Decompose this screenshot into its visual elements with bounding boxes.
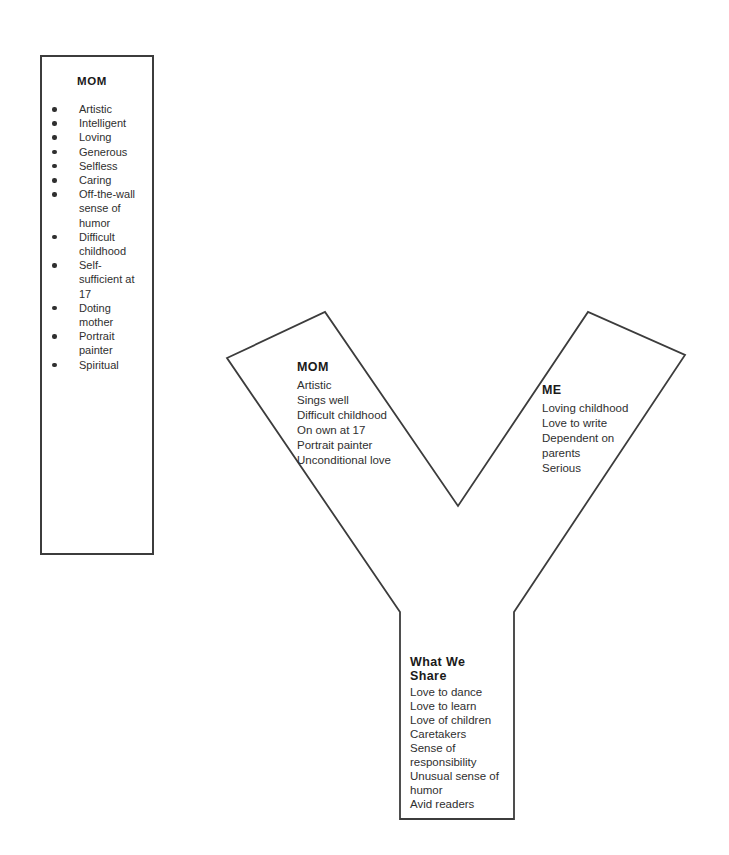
page: MOM ArtisticIntelligentLovingGenerousSel… <box>0 0 729 855</box>
left-arm-title: MOM <box>297 360 417 375</box>
y-chart-right-arm-section: ME Loving childhoodLove to writeDependen… <box>542 383 642 476</box>
list-item: Artistic <box>297 378 417 393</box>
list-item: Unconditional love <box>297 453 417 468</box>
list-item: Love to write <box>542 416 642 431</box>
list-item: On own at 17 <box>297 423 417 438</box>
stem-list: Love to danceLove to learnLove of childr… <box>410 685 507 811</box>
list-item: Sense of responsibility <box>410 741 507 769</box>
y-chart-left-arm-section: MOM ArtisticSings wellDifficult childhoo… <box>297 360 417 468</box>
list-item: Unusual sense of humor <box>410 769 507 797</box>
right-arm-list: Loving childhoodLove to writeDependent o… <box>542 401 642 476</box>
left-arm-list: ArtisticSings wellDifficult childhoodOn … <box>297 378 417 468</box>
list-item: Love of children <box>410 713 507 727</box>
y-chart-stem-section: What We Share Love to danceLove to learn… <box>410 655 507 811</box>
list-item: Serious <box>542 461 642 476</box>
stem-title: What We Share <box>410 655 482 683</box>
list-item: Loving childhood <box>542 401 642 416</box>
list-item: Portrait painter <box>297 438 417 453</box>
list-item: Caretakers <box>410 727 507 741</box>
list-item: Difficult childhood <box>297 408 417 423</box>
list-item: Love to dance <box>410 685 507 699</box>
right-arm-title: ME <box>542 383 642 398</box>
list-item: Dependent on parents <box>542 431 642 461</box>
list-item: Sings well <box>297 393 417 408</box>
list-item: Avid readers <box>410 797 507 811</box>
list-item: Love to learn <box>410 699 507 713</box>
